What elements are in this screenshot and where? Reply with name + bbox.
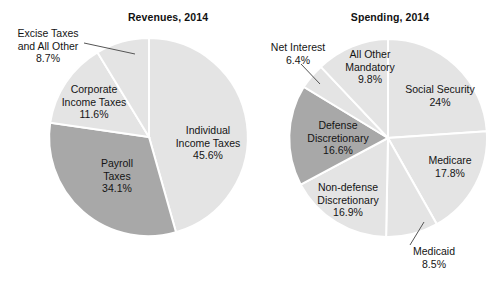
label-line-1: Medicaid [396,245,472,258]
label-all-other-mandatory: All Other Mandatory 9.8% [331,48,409,86]
label-line-2: Income Taxes [163,137,253,150]
label-non-defense-discretionary: Non-defense Discretionary 16.9% [300,181,396,219]
label-individual-income-taxes: Individual Income Taxes 45.6% [163,124,253,162]
label-value: 24% [392,96,488,109]
label-value: 34.1% [78,182,156,195]
label-line-1: Defense [296,119,380,132]
label-medicaid: Medicaid 8.5% [396,245,472,270]
label-social-security: Social Security 24% [392,83,488,108]
label-line-2: and All Other [2,40,94,53]
label-line-1: Medicare [412,154,488,167]
label-value: 16.6% [296,144,380,157]
label-value: 6.4% [255,54,341,67]
label-value: 8.7% [2,52,94,65]
label-line-1: Excise Taxes [2,27,94,40]
label-line-1: Net Interest [255,41,341,54]
figure-canvas: Revenues, 2014 Spending, 2014 Excise Tax… [0,0,499,286]
label-line-2: Discretionary [296,132,380,145]
label-line-1: Non-defense [300,181,396,194]
label-line-1: Corporate [48,83,140,96]
label-value: 17.8% [412,167,488,180]
label-value: 16.9% [300,206,396,219]
spending-chart-title: Spending, 2014 [330,11,450,23]
label-medicare: Medicare 17.8% [412,154,488,179]
label-excise-taxes-and-all-other: Excise Taxes and All Other 8.7% [2,27,94,65]
label-payroll-taxes: Payroll Taxes 34.1% [78,157,156,195]
label-line-2: Mandatory [331,61,409,74]
label-value: 45.6% [163,149,253,162]
label-line-1: Individual [163,124,253,137]
label-line-2: Income Taxes [48,96,140,109]
label-corporate-income-taxes: Corporate Income Taxes 11.6% [48,83,140,121]
label-line-1: Social Security [392,83,488,96]
label-line-2: Discretionary [300,194,396,207]
label-defense-discretionary: Defense Discretionary 16.6% [296,119,380,157]
label-value: 8.5% [396,258,472,271]
label-line-1: Payroll [78,157,156,170]
label-net-interest: Net Interest 6.4% [255,41,341,66]
label-value: 11.6% [48,108,140,121]
revenues-chart-title: Revenues, 2014 [108,11,228,23]
label-line-2: Taxes [78,170,156,183]
label-line-1: All Other [331,48,409,61]
